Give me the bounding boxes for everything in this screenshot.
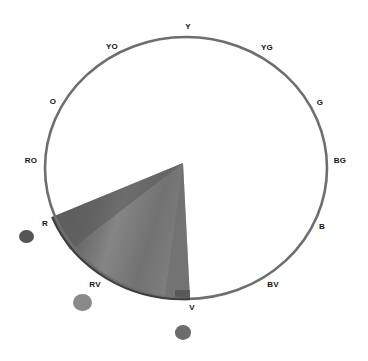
hue-label-v: V — [189, 303, 195, 312]
hue-label-bg: BG — [334, 156, 346, 165]
swatch-v — [175, 325, 191, 340]
hue-label-y: Y — [185, 22, 191, 31]
hue-label-o: O — [50, 97, 56, 106]
hue-label-yg: YG — [261, 43, 273, 52]
hue-label-b: B — [319, 222, 325, 231]
swatch-r — [19, 230, 34, 244]
swatch-rv — [73, 294, 92, 311]
hue-label-ro: RO — [25, 156, 37, 165]
color-wheel-svg — [0, 0, 368, 361]
hue-label-bv: BV — [267, 280, 279, 289]
hue-label-g: G — [317, 98, 323, 107]
hue-label-r: R — [42, 219, 48, 228]
hue-label-rv: RV — [89, 280, 100, 289]
hue-label-yo: YO — [106, 42, 118, 51]
color-wheel-diagram: YYGGBGBBVVRVRROOYO — [0, 0, 368, 361]
